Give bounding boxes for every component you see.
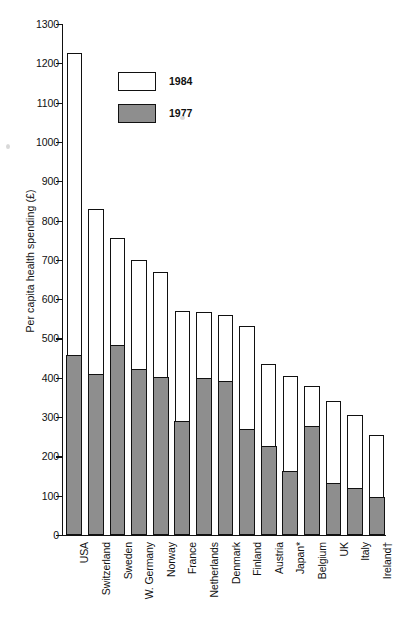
legend-item-1977: 1977 xyxy=(118,102,238,124)
bar-usa xyxy=(67,53,83,535)
legend-swatch-1977-icon xyxy=(118,104,156,123)
bar-segment-1977 xyxy=(369,497,385,535)
bar-segment-1977 xyxy=(304,426,320,535)
x-axis-label-usa: USA xyxy=(78,542,90,563)
bar-japan xyxy=(283,376,299,535)
bar-norway xyxy=(153,272,169,535)
x-axis-label-w-germany: W. Germany xyxy=(143,542,155,599)
y-tick-label: 1200 xyxy=(36,57,59,69)
x-axis-label-uk: UK xyxy=(338,542,350,556)
bar-italy xyxy=(347,415,363,535)
x-axis-label-ireland: Ireland† xyxy=(381,542,393,579)
x-axis-line xyxy=(62,535,386,536)
y-tick-label: 700 xyxy=(42,254,59,266)
x-axis-label-belgium: Belgium xyxy=(316,542,328,579)
y-tick-label: 1000 xyxy=(36,136,59,148)
y-tick-label: 0 xyxy=(53,529,59,541)
bar-uk xyxy=(326,401,342,535)
bar-segment-1977 xyxy=(239,429,255,535)
x-axis-label-norway: Norway xyxy=(165,542,177,577)
x-axis-label-italy: Italy xyxy=(359,542,371,561)
bar-segment-1977 xyxy=(261,446,277,536)
y-axis-title: Per capita health spending (£) xyxy=(24,151,36,371)
bar-netherlands xyxy=(196,312,212,535)
bar-belgium xyxy=(304,386,320,535)
chart-container: Per capita health spending (£) 010020030… xyxy=(0,0,408,622)
x-axis-label-japan: Japan* xyxy=(294,542,306,574)
bar-ireland xyxy=(369,435,385,535)
bar-segment-1977 xyxy=(218,381,234,535)
y-tick-label: 200 xyxy=(42,450,59,462)
legend: 1984 1977 xyxy=(118,70,238,134)
y-tick-label: 300 xyxy=(42,411,59,423)
bar-denmark xyxy=(218,315,234,535)
y-tick-label: 400 xyxy=(42,372,59,384)
bar-segment-1977 xyxy=(131,369,147,535)
x-axis-label-sweden: Sweden xyxy=(122,542,134,579)
y-tick-label: 600 xyxy=(42,293,59,305)
bar-austria xyxy=(261,364,277,535)
y-tick-label: 100 xyxy=(42,490,59,502)
scan-speck xyxy=(6,144,10,149)
y-axis-line xyxy=(62,24,63,535)
y-tick-label: 1300 xyxy=(36,18,59,30)
bar-france xyxy=(175,311,191,535)
bar-segment-1977 xyxy=(174,421,190,535)
bar-finland xyxy=(239,326,255,536)
bar-segment-1977 xyxy=(88,374,104,535)
legend-swatch-1984-icon xyxy=(118,72,156,91)
legend-item-1984: 1984 xyxy=(118,70,238,92)
bar-segment-1977 xyxy=(326,483,342,535)
bar-segment-1977 xyxy=(153,377,169,535)
bar-w-germany xyxy=(131,260,147,535)
bar-segment-1977 xyxy=(66,355,82,535)
y-tick-label: 900 xyxy=(42,175,59,187)
y-tick-label: 800 xyxy=(42,215,59,227)
bar-segment-1977 xyxy=(196,378,212,535)
y-tick-label: 1100 xyxy=(37,97,59,109)
x-axis-label-denmark: Denmark xyxy=(230,542,242,584)
x-axis-label-finland: Finland xyxy=(251,542,263,576)
legend-label-1984: 1984 xyxy=(169,75,192,87)
x-axis-label-netherlands: Netherlands xyxy=(208,542,220,598)
bar-segment-1977 xyxy=(282,471,298,535)
x-axis-label-switzerland: Switzerland xyxy=(100,542,112,595)
bar-segment-1977 xyxy=(110,345,126,535)
bar-switzerland xyxy=(88,209,104,535)
x-axis-label-france: France xyxy=(186,542,198,574)
bar-segment-1977 xyxy=(347,488,363,535)
bar-sweden xyxy=(110,238,126,535)
x-axis-label-austria: Austria xyxy=(273,542,285,574)
scan-speck xyxy=(180,116,185,120)
y-tick-label: 500 xyxy=(42,332,59,344)
